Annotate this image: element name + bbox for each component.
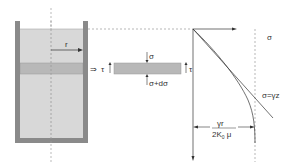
sigma-axis-arrowhead [232, 28, 237, 31]
tau-left-arrowhead [109, 62, 112, 65]
silo-slice [20, 63, 83, 74]
tau-left-label: τ [101, 65, 105, 74]
silo-right-wall [83, 21, 88, 143]
tau-right-label: τ [189, 65, 193, 74]
sigma-bottom-arrowhead [146, 74, 149, 77]
dimension-left-arrowhead [193, 126, 198, 129]
depth-axis-arrowhead [192, 156, 195, 161]
radius-label: r [65, 40, 68, 49]
linear-stress-label: σ=γz [262, 91, 280, 100]
implies-arrow: ⇒ [90, 65, 97, 74]
silo-bottom [15, 138, 88, 143]
sigma-top-label: σ [149, 52, 154, 61]
silo-left-wall [15, 21, 20, 143]
silo-diagram: r ⇒ τ τ σ σ+dσ σ σ=γz γr 2K0 μ [0, 0, 299, 167]
tau-right-arrowhead [185, 62, 188, 65]
sigma-bottom-label: σ+dσ [149, 79, 168, 88]
linear-stress-line [193, 29, 273, 118]
silo-fill [20, 29, 83, 138]
sigma-axis-label: σ [267, 33, 272, 42]
fraction-numerator: γr [217, 119, 224, 128]
slice-element [114, 63, 181, 74]
